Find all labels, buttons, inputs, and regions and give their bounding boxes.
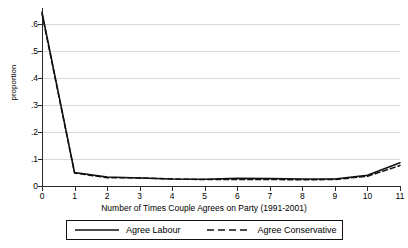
y-axis-tick-label: .3: [31, 101, 38, 109]
x-axis-tick-label: 8: [300, 192, 305, 201]
series-lines: [42, 8, 400, 186]
x-axis-tick-label: 4: [170, 192, 175, 201]
y-axis-tick-label: .6: [31, 20, 38, 28]
x-axis-tick-label: 9: [333, 192, 338, 201]
legend-swatch-solid-icon: [75, 225, 119, 235]
legend-entry-agree-conservative: Agree Conservative: [207, 225, 337, 235]
legend-label-agree-labour: Agree Labour: [126, 225, 181, 235]
chart-figure: proportion 0.1.2.3.4.5.6 01234567891011 …: [0, 0, 408, 248]
y-axis-tick-label: .1: [31, 155, 38, 163]
series-line-agree-labour: [42, 12, 400, 179]
plot-area: [42, 8, 400, 186]
legend-entry-agree-labour: Agree Labour: [75, 225, 181, 235]
x-axis-tick-label: 6: [235, 192, 240, 201]
y-axis-tick-label: .2: [31, 128, 38, 136]
x-axis-title: Number of Times Couple Agrees on Party (…: [0, 203, 408, 213]
x-axis-tick-label: 11: [396, 192, 405, 201]
x-axis-tick-label: 1: [72, 192, 77, 201]
x-axis-tick-label: 0: [40, 192, 45, 201]
x-axis-tick-label: 10: [363, 192, 372, 201]
y-axis-tick-label: .4: [31, 74, 38, 82]
x-axis-tick-label: 2: [105, 192, 110, 201]
x-axis-tick-label: 7: [267, 192, 272, 201]
legend-label-agree-conservative: Agree Conservative: [258, 225, 337, 235]
x-axis-line: [42, 186, 400, 187]
legend-swatch-dashed-icon: [207, 225, 251, 235]
chart-legend: Agree Labour Agree Conservative: [66, 220, 343, 240]
x-axis-tick-label: 5: [202, 192, 207, 201]
y-axis-tick-labels: 0.1.2.3.4.5.6: [0, 8, 40, 186]
series-line-agree-conservative: [42, 14, 400, 180]
x-axis-tick-label: 3: [137, 192, 142, 201]
y-axis-tick-label: .5: [31, 47, 38, 55]
